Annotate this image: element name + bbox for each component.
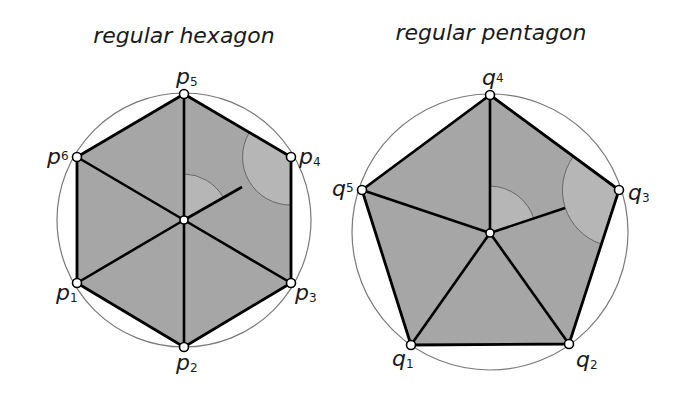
label-p5: p5: [175, 64, 198, 89]
hexagon-title: regular hexagon: [93, 23, 274, 48]
label-p4: p4: [298, 144, 321, 169]
hexagon-figure: regular hexagon p5: [46, 23, 321, 375]
pentagon-figure: regular pentagon q4 q3 q5: [332, 20, 650, 372]
label-p2: p2: [175, 350, 198, 375]
label-p6: p6: [46, 144, 69, 169]
label-q3: q3: [628, 180, 650, 205]
label-p3: p3: [294, 280, 317, 305]
label-q2: q2: [576, 347, 598, 372]
pentagon-title: regular pentagon: [395, 20, 586, 45]
label-q4: q4: [482, 65, 504, 90]
polygons-diagram: regular hexagon p5: [0, 0, 675, 406]
label-q5: q5: [332, 176, 354, 201]
